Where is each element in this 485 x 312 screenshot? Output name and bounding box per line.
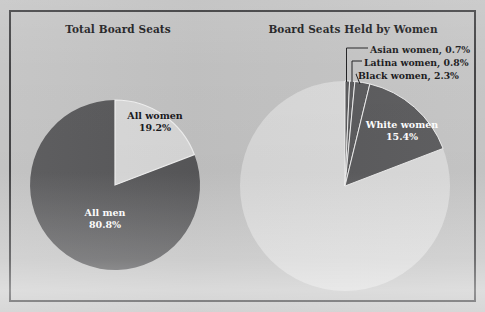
callout-label-black-women: Black women, 2.3% xyxy=(358,70,459,81)
pie-chart-figure: Total Board Seats All women 19.2% All me… xyxy=(0,0,485,312)
callout-label-latina-women: Latina women, 0.8% xyxy=(364,57,469,68)
right-slice-label-white-women: White women 15.4% xyxy=(352,119,452,143)
callout-label-asian-women: Asian women, 0.7% xyxy=(370,44,470,55)
white-women-value: 15.4% xyxy=(352,131,452,143)
white-women-name: White women xyxy=(352,119,452,131)
